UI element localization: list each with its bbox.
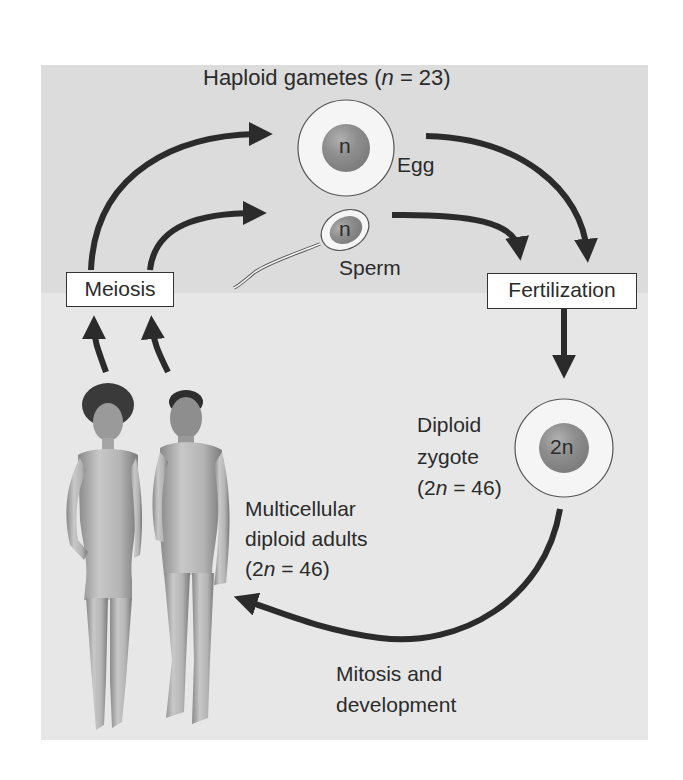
zygote-nucleus-label: 2n: [550, 434, 573, 459]
egg-label: Egg: [397, 152, 434, 177]
zygote-label-line2: zygote: [417, 444, 479, 469]
arrow-female-to-meiosis: [94, 326, 106, 372]
fertilization-box: Fertilization: [487, 273, 637, 309]
mitosis-label-line1: Mitosis and: [336, 661, 442, 686]
mitosis-label-line2: development: [336, 692, 456, 717]
zygote-label-line3: (2n = 46): [417, 475, 502, 500]
meiosis-box: Meiosis: [66, 272, 174, 307]
haploid-gametes-title: Haploid gametes (n = 23): [203, 65, 451, 90]
arrow-male-to-meiosis: [152, 326, 168, 372]
male-figure: [153, 390, 230, 724]
arrow-meiosis-to-sperm: [150, 213, 256, 270]
adults-label-line2: diploid adults: [245, 526, 368, 551]
zygote-label-line1: Diploid: [417, 412, 481, 437]
adults-label-line1: Multicellular: [245, 496, 356, 521]
arrow-sperm-to-fertilization: [392, 215, 519, 250]
egg-nucleus-label: n: [339, 133, 351, 158]
adults-label-line3: (2n = 46): [245, 556, 330, 581]
sperm-nucleus-label: n: [339, 216, 351, 241]
female-figure: [66, 383, 142, 730]
arrow-meiosis-to-egg: [91, 134, 262, 270]
sperm-label: Sperm: [339, 255, 401, 280]
